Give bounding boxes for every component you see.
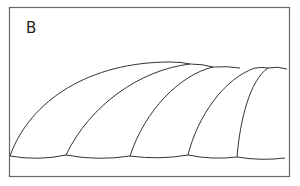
arch-5	[237, 67, 287, 157]
panel-label: B	[26, 19, 36, 37]
frame	[10, 8, 290, 177]
base-arc-3	[130, 155, 188, 158]
diagram-canvas	[0, 0, 300, 186]
arch-curves	[10, 62, 287, 159]
base-arc-4	[188, 155, 237, 158]
base-arc-5	[237, 157, 285, 159]
arch-1	[10, 62, 190, 156]
arch-3	[130, 67, 240, 156]
arch-4	[188, 68, 268, 156]
base-arc-2	[66, 155, 130, 158]
base-arc-1	[10, 155, 66, 158]
